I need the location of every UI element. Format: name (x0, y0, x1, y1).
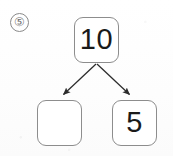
number-bond-total-box[interactable]: 10 (74, 17, 119, 63)
number-bond-part-right-box[interactable]: 5 (112, 100, 157, 146)
number-bond-part-right-value: 5 (126, 108, 143, 137)
worksheet-canvas: ⑤ 10 5 (0, 0, 173, 156)
arrow-to-left-part (64, 64, 97, 95)
number-bond-part-left-box[interactable] (37, 100, 82, 146)
arrow-to-right-part (97, 64, 130, 95)
number-bond-total-value: 10 (80, 25, 113, 54)
